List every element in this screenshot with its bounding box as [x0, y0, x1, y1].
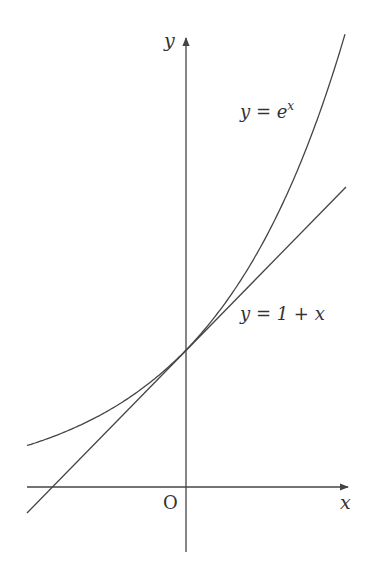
tangent-line-label: y = 1 + x — [239, 303, 325, 324]
origin-label: O — [163, 492, 178, 513]
exponential-label: y = ex — [239, 99, 294, 122]
y-axis-label: y — [163, 29, 175, 51]
x-axis-label: x — [340, 491, 351, 513]
diagram-canvas: y x O y = ex y = 1 + x — [0, 0, 372, 580]
